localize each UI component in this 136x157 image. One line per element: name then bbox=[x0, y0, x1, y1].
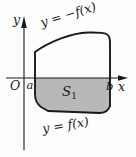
upper-curve-label-group: y = −f(x) bbox=[38, 0, 98, 30]
lower-curve-label: y = f(x) bbox=[40, 114, 90, 136]
y-axis-label: y bbox=[12, 12, 21, 27]
x-axis-label: x bbox=[118, 79, 125, 94]
y-axis-arrowhead bbox=[21, 16, 27, 28]
region-label-subscript: 1 bbox=[71, 91, 77, 101]
lower-curve-label-group: y = f(x) bbox=[40, 114, 90, 136]
right-bound-label-b: b bbox=[106, 79, 113, 93]
region-label-letter: S bbox=[62, 83, 71, 99]
region-diagram-svg: y = −f(x) y = f(x) O a b x y S1 bbox=[0, 0, 136, 157]
figure-container: y = −f(x) y = f(x) O a b x y S1 bbox=[0, 0, 136, 157]
upper-curve-label: y = −f(x) bbox=[38, 0, 98, 30]
left-bound-label-a: a bbox=[27, 78, 34, 92]
origin-label: O bbox=[10, 78, 20, 93]
